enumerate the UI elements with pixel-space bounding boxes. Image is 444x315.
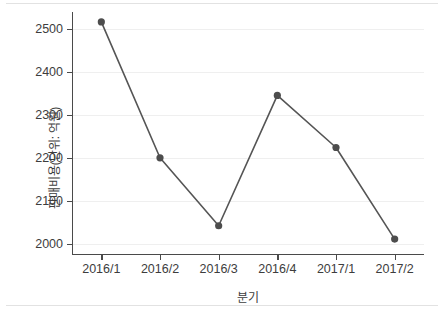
y-tick-label: 2400 <box>35 65 63 79</box>
y-tick-label: 2200 <box>35 151 63 165</box>
y-tick-label: 2100 <box>35 194 63 208</box>
x-tick-label: 2017/1 <box>317 262 355 276</box>
y-tick-label: 2000 <box>35 237 63 251</box>
y-tick-label: 2300 <box>35 108 63 122</box>
y-tick-label: 2500 <box>35 22 63 36</box>
x-tick-mark <box>395 255 396 260</box>
plot-area: 200021002200230024002500 2016/12016/2201… <box>72 12 424 255</box>
x-axis-title: 분기 <box>72 288 424 305</box>
line-series <box>72 12 424 255</box>
data-point <box>391 235 398 242</box>
x-tick-mark <box>336 255 337 260</box>
data-point <box>274 92 281 99</box>
data-point <box>215 222 222 229</box>
x-tick-mark <box>219 255 220 260</box>
x-tick-mark <box>160 255 161 260</box>
x-tick-mark <box>101 255 102 260</box>
x-tick-mark <box>277 255 278 260</box>
bottom-divider <box>6 305 438 306</box>
series-markers <box>98 18 399 242</box>
data-point <box>156 154 163 161</box>
x-tick-label: 2016/1 <box>82 262 120 276</box>
x-tick-label: 2017/2 <box>376 262 414 276</box>
x-tick-label: 2016/4 <box>258 262 296 276</box>
top-divider <box>6 3 438 4</box>
series-line-path <box>101 22 394 239</box>
data-point <box>98 18 105 25</box>
data-point <box>332 144 339 151</box>
x-tick-label: 2016/3 <box>200 262 238 276</box>
x-tick-label: 2016/2 <box>141 262 179 276</box>
chart-figure: 판매비용(단위: 억원) 분기 200021002200230024002500… <box>0 0 444 315</box>
